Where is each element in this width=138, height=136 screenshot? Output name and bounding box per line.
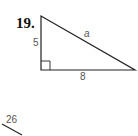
next-figure-label: 26 bbox=[6, 115, 17, 125]
partial-figure-line bbox=[2, 124, 22, 135]
horizontal-leg-label: 8 bbox=[80, 72, 86, 82]
right-triangle bbox=[41, 16, 135, 70]
vertical-leg-label: 5 bbox=[33, 38, 39, 48]
problem-number: 19. bbox=[16, 16, 35, 31]
right-angle-marker bbox=[41, 61, 50, 70]
hypotenuse-label: a bbox=[84, 29, 90, 39]
